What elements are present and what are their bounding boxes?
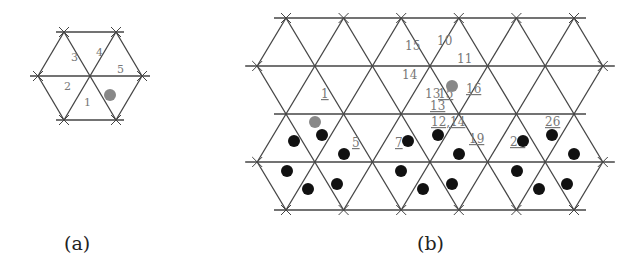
lattice-edge (344, 66, 373, 114)
lattice-edge (459, 162, 488, 210)
lattice-edge (344, 162, 373, 210)
black-dot (432, 129, 444, 141)
triangle-label: 5 (117, 63, 124, 76)
black-dot (568, 148, 580, 160)
black-dot (338, 148, 350, 160)
triangle-label: 2 (64, 80, 71, 93)
lattice-edge (257, 18, 286, 66)
lattice-edge (516, 66, 545, 114)
black-dot (395, 165, 407, 177)
triangle-label: 15 (405, 39, 420, 53)
black-dot (281, 165, 293, 177)
triangle-label: 3 (71, 51, 78, 64)
gray-dot (309, 116, 321, 128)
gray-dot (104, 89, 116, 101)
lattice-edge (38, 32, 64, 76)
lattice-edge (38, 76, 64, 120)
lattice-edge (545, 66, 574, 114)
black-dot (546, 129, 558, 141)
triangle-label: 26 (545, 115, 560, 129)
black-dot (316, 129, 328, 141)
black-dot (453, 148, 465, 160)
lattice-edge (315, 66, 344, 114)
triangle-label: 12,14 (431, 115, 466, 129)
lattice-edge (516, 18, 545, 66)
black-dot (517, 135, 529, 147)
triangle-label: 14 (402, 68, 418, 82)
lattice-edge (286, 66, 315, 114)
black-dot (511, 165, 523, 177)
caption-b: (b) (417, 232, 444, 254)
triangle-label: 16 (466, 82, 481, 96)
black-dot (288, 135, 300, 147)
black-dot (533, 183, 545, 195)
gray-dot (446, 80, 458, 92)
lattice-edge (344, 18, 373, 66)
black-dot (302, 183, 314, 195)
black-dot (446, 178, 458, 190)
triangle-label: 19 (469, 132, 484, 146)
triangle-label: 10 (437, 34, 452, 48)
triangle-label: 1 (321, 87, 329, 101)
triangular-lattice-figure: 12345 1510111411315161312,1457192126 (0, 0, 644, 271)
lattice-edge (116, 76, 142, 120)
lattice-edge (257, 66, 286, 114)
black-dot (331, 178, 343, 190)
black-dot (402, 135, 414, 147)
triangle-label: 1 (84, 96, 91, 109)
panel-b-lattice: 1510111411315161312,1457192126 (245, 13, 615, 215)
lattice-edge (315, 18, 344, 66)
lattice-edge (574, 66, 603, 114)
lattice-edge (372, 18, 401, 66)
lattice-edge (574, 18, 603, 66)
triangle-label: 11 (457, 52, 472, 66)
black-dot (417, 183, 429, 195)
lattice-edge (257, 114, 286, 162)
lattice-edge (488, 18, 517, 66)
triangle-label: 7 (395, 136, 403, 150)
caption-a: (a) (64, 232, 90, 254)
panel-a-hexagon: 12345 (30, 27, 150, 125)
triangle-label: 4 (96, 46, 103, 59)
lattice-edge (488, 66, 517, 114)
triangle-label: 5 (352, 136, 360, 150)
lattice-edge (545, 18, 574, 66)
triangle-label: 13 (430, 99, 445, 113)
lattice-edge (372, 66, 401, 114)
black-dot (561, 178, 573, 190)
lattice-edge (286, 18, 315, 66)
lattice-edge (574, 162, 603, 210)
